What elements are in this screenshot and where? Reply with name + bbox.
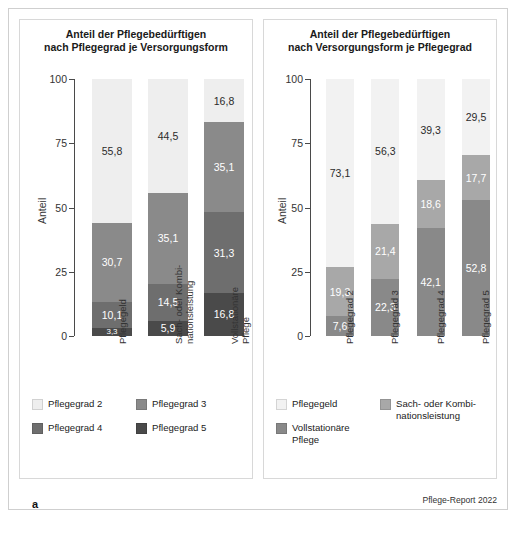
panel-b-plot-area: 0255075100Anteil7,619,373,1Pflegegrad 22… <box>310 79 490 336</box>
y-axis-title: Anteil <box>276 197 288 223</box>
legend-swatch-icon <box>276 423 287 434</box>
legend-swatch-icon <box>136 399 147 410</box>
bar-segment-value: 35,1 <box>148 233 188 244</box>
y-axis-tick <box>69 336 74 337</box>
legend-item[interactable]: Pflegegrad 2 <box>32 398 102 410</box>
chart-panel-a: Anteil der Pflegebedürftigen nach Pflege… <box>19 19 253 479</box>
legend-swatch-icon <box>32 423 43 434</box>
legend-item[interactable]: Sach- oder Kombi-nationsleistung <box>380 398 476 422</box>
y-axis-tick <box>305 336 310 337</box>
legend-swatch-icon <box>32 399 43 410</box>
bar-segment-value: 21,4 <box>371 246 399 257</box>
y-axis-line <box>74 79 75 336</box>
legend-item[interactable]: Pflegegeld <box>276 398 337 410</box>
y-axis-tick <box>69 143 74 144</box>
y-axis-tick-label: 100 <box>285 73 303 85</box>
x-axis-label: Pflegegrad 4 <box>435 290 446 344</box>
bar-segment-value: 16,8 <box>204 95 244 106</box>
panel-a-legend: Pflegegrad 2Pflegegrad 3Pflegegrad 4Pfle… <box>32 398 244 446</box>
y-axis-tick-label: 0 <box>61 330 67 342</box>
y-axis-tick-label: 0 <box>297 330 303 342</box>
y-axis-tick-label: 25 <box>291 266 303 278</box>
bar-segment-value: 31,3 <box>204 247 244 258</box>
y-axis-title: Anteil <box>36 197 48 223</box>
y-axis-tick-label: 100 <box>49 73 67 85</box>
y-axis-tick <box>305 79 310 80</box>
panel-b-title-line1: Anteil der Pflegebedürftigen <box>310 28 451 40</box>
x-axis-label: VollstationärePflege <box>229 287 251 344</box>
panel-a-plot-area: 0255075100Anteil3,310,130,755,8Pflegegel… <box>74 79 244 336</box>
legend-swatch-icon <box>380 399 391 410</box>
panel-a-title-line2: nach Pflegegrad je Versorgungsform <box>44 41 228 53</box>
legend-row: Pflegegrad 4Pflegegrad 5 <box>32 422 244 446</box>
y-axis-tick-label: 50 <box>291 202 303 214</box>
legend-label: Pflegegrad 2 <box>48 398 102 410</box>
panel-b-title-line2: nach Versorgungsform je Pflegegrad <box>288 41 472 53</box>
legend-item[interactable]: Pflegegrad 3 <box>136 398 206 410</box>
chart-panel-b: Anteil der Pflegebedürftigen nach Versor… <box>263 19 497 479</box>
bar-segment-value: 35,1 <box>204 162 244 173</box>
bar-segment-value: 56,3 <box>371 146 399 157</box>
bar-segment-value: 29,5 <box>462 112 490 123</box>
x-axis-label: Pflegegeld <box>117 299 128 344</box>
legend-label: Pflegegrad 3 <box>152 398 206 410</box>
bar-stack[interactable]: 3,310,130,755,8 <box>92 79 132 336</box>
panel-a-title-line1: Anteil der Pflegebedürftigen <box>66 28 207 40</box>
legend-swatch-icon <box>136 423 147 434</box>
bar-segment-value: 18,6 <box>417 199 445 210</box>
bar-segment-value: 17,7 <box>462 172 490 183</box>
y-axis-tick-label: 75 <box>55 137 67 149</box>
y-axis-tick-label: 25 <box>55 266 67 278</box>
legend-row: Pflegegrad 2Pflegegrad 3 <box>32 398 244 422</box>
figure-frame: Anteil der Pflegebedürftigen nach Pflege… <box>8 8 508 510</box>
y-axis-tick <box>69 208 74 209</box>
y-axis-line <box>310 79 311 336</box>
legend-item[interactable]: VollstationärePflege <box>276 422 350 446</box>
source-note: Pflege-Report 2022 <box>422 495 497 505</box>
bar-segment-value: 52,8 <box>462 263 490 274</box>
y-axis-tick <box>69 79 74 80</box>
y-axis-tick <box>305 143 310 144</box>
legend-label: VollstationärePflege <box>292 422 350 446</box>
panel-b-title: Anteil der Pflegebedürftigen nach Versor… <box>270 28 490 54</box>
panel-a-letter: a <box>32 498 38 510</box>
legend-label: Pflegegrad 5 <box>152 422 206 434</box>
bar-segment-value: 30,7 <box>92 257 132 268</box>
panel-b-legend: PflegegeldSach- oder Kombi-nationsleistu… <box>276 398 488 446</box>
legend-row: PflegegeldSach- oder Kombi-nationsleistu… <box>276 398 488 422</box>
x-axis-label: Pflegegrad 5 <box>480 290 491 344</box>
legend-label: Sach- oder Kombi-nationsleistung <box>396 398 476 422</box>
legend-item[interactable]: Pflegegrad 5 <box>136 422 206 434</box>
bar-segment-value: 42,1 <box>417 277 445 288</box>
legend-item[interactable]: Pflegegrad 4 <box>32 422 102 434</box>
bar-segment-value: 55,8 <box>92 146 132 157</box>
y-axis-tick <box>305 272 310 273</box>
x-axis-label: Pflegegrad 2 <box>344 290 355 344</box>
x-axis-label: Pflegegrad 3 <box>389 290 400 344</box>
bar-segment-value: 73,1 <box>326 168 354 179</box>
y-axis-tick-label: 50 <box>55 202 67 214</box>
y-axis-tick <box>69 272 74 273</box>
legend-row: VollstationärePflege <box>276 422 488 446</box>
legend-label: Pflegegrad 4 <box>48 422 102 434</box>
x-axis-label: Sach- oder Kombi-nationsleistung <box>173 265 195 344</box>
legend-label: Pflegegeld <box>292 398 337 410</box>
legend-swatch-icon <box>276 399 287 410</box>
y-axis-tick <box>305 208 310 209</box>
bar-segment-value: 39,3 <box>417 124 445 135</box>
panel-a-title: Anteil der Pflegebedürftigen nach Pflege… <box>26 28 246 54</box>
y-axis-tick-label: 75 <box>291 137 303 149</box>
bar-segment-value: 44,5 <box>148 131 188 142</box>
